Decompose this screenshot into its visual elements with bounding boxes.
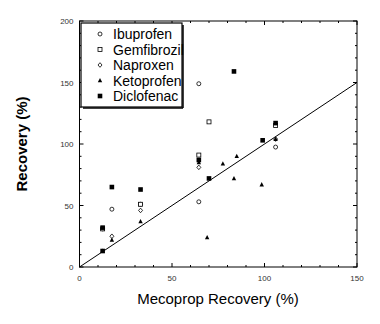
x-tick-label: 50 bbox=[168, 274, 177, 283]
legend-item-label: Naproxen bbox=[113, 57, 174, 73]
legend-marker bbox=[98, 48, 102, 52]
data-point bbox=[139, 208, 143, 213]
y-axis-label: Recovery (%) bbox=[13, 96, 30, 191]
data-point bbox=[139, 202, 143, 206]
data-point bbox=[197, 200, 201, 204]
x-tick-label: 0 bbox=[77, 274, 82, 283]
data-point bbox=[100, 225, 105, 230]
legend-marker bbox=[98, 32, 102, 36]
legend: IbuprofenGemfibrozilNaproxenKetoprofenDi… bbox=[81, 23, 184, 108]
data-point bbox=[260, 182, 264, 186]
data-point bbox=[110, 237, 114, 241]
data-point bbox=[138, 187, 143, 192]
data-point bbox=[205, 235, 209, 239]
data-point bbox=[232, 69, 237, 74]
legend-item-label: Ibuprofen bbox=[113, 26, 172, 42]
data-point bbox=[197, 153, 201, 157]
data-point bbox=[273, 121, 278, 126]
data-point bbox=[110, 185, 115, 190]
y-tick-label: 150 bbox=[60, 79, 74, 88]
data-point bbox=[207, 176, 212, 181]
legend-marker bbox=[98, 94, 103, 99]
x-tick-label: 150 bbox=[350, 274, 364, 283]
data-point bbox=[197, 165, 201, 170]
data-point bbox=[235, 154, 239, 158]
data-point bbox=[260, 138, 265, 143]
legend-item-label: Ketoprofen bbox=[113, 73, 182, 89]
legend-item-label: Gemfibrozil bbox=[113, 42, 184, 58]
data-point bbox=[197, 158, 202, 163]
data-point bbox=[197, 82, 201, 86]
data-point bbox=[110, 207, 114, 211]
data-point bbox=[207, 120, 211, 124]
scatter-chart: 050100150050100150200 IbuprofenGemfibroz… bbox=[0, 0, 380, 324]
series-gemfibrozil bbox=[101, 120, 278, 231]
x-tick-label: 100 bbox=[258, 274, 272, 283]
data-point bbox=[232, 176, 236, 180]
data-point bbox=[100, 249, 105, 254]
legend-item-label: Diclofenac bbox=[113, 88, 178, 104]
y-tick-label: 100 bbox=[60, 140, 74, 149]
x-axis-label: Mecoprop Recovery (%) bbox=[137, 290, 299, 307]
data-point bbox=[274, 145, 278, 149]
y-tick-label: 200 bbox=[60, 17, 74, 26]
reference-line bbox=[80, 83, 358, 268]
data-point bbox=[221, 161, 225, 165]
y-tick-label: 0 bbox=[69, 263, 74, 272]
data-point bbox=[138, 219, 142, 223]
y-tick-label: 50 bbox=[65, 202, 74, 211]
